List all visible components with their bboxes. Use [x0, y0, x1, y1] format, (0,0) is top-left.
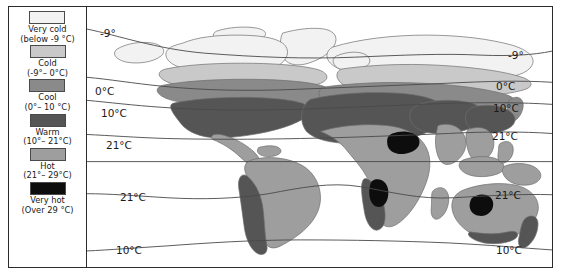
legend-item-very-hot: Very hot (Over 29 °C) [21, 182, 73, 215]
isotherm-label-left-10: 10°C [101, 108, 127, 119]
legend-item-cool: Cool (0°– 10 °C) [25, 79, 71, 112]
legend-swatch-very-cold [29, 11, 65, 24]
legend-item-cold: Cold (-9°– 0°C) [27, 45, 68, 78]
legend-item-very-cold: Very cold (below -9 °C) [20, 11, 75, 44]
legend-range-hot: (21°– 29°C) [23, 171, 71, 181]
legend-item-warm: Warm (10°– 21°C) [23, 114, 71, 147]
figure-frame: Very cold (below -9 °C) Cold (-9°– 0°C) … [8, 6, 553, 268]
temperature-zone-legend: Very cold (below -9 °C) Cold (-9°– 0°C) … [9, 7, 87, 267]
legend-swatch-cool [29, 79, 65, 92]
isotherm-label-left-10-south: 10°C [116, 245, 142, 256]
legend-swatch-hot [30, 148, 66, 161]
isotherm-label-left-0: 0°C [95, 86, 114, 97]
legend-range-very-hot: (Over 29 °C) [21, 206, 73, 216]
land-indonesia [459, 157, 504, 177]
legend-item-hot: Hot (21°– 29°C) [23, 148, 71, 181]
map-canvas [87, 7, 552, 267]
isotherm-label-left-21-north: 21°C [106, 140, 132, 151]
isotherm-label-left-21-south: 21°C [120, 192, 146, 203]
isotherm-label-right-10: 10°C [493, 103, 519, 114]
legend-range-cool: (0°– 10 °C) [25, 103, 71, 113]
isotherm-label-right-21-south: 21°C [495, 190, 521, 201]
legend-swatch-very-hot [30, 182, 66, 195]
land-caribbean [257, 146, 281, 157]
isotherm-label-right-minus9: -9° [508, 50, 524, 61]
isotherm-label-right-0: 0°C [496, 81, 515, 92]
land-very-hot-southern-africa [369, 179, 388, 207]
isotherm-label-right-10-south: 10°C [496, 245, 522, 256]
isotherm-label-left-minus9: -9° [100, 28, 116, 39]
legend-swatch-warm [30, 114, 66, 127]
world-temperature-map: -9° 0°C 10°C 21°C 21°C 10°C -9° 0°C 10°C… [87, 7, 552, 267]
legend-swatch-cold [30, 45, 66, 58]
legend-range-very-cold: (below -9 °C) [20, 35, 75, 45]
legend-range-warm: (10°– 21°C) [23, 137, 71, 147]
legend-range-cold: (-9°– 0°C) [27, 69, 68, 79]
isotherm-label-right-21-north: 21°C [492, 131, 518, 142]
